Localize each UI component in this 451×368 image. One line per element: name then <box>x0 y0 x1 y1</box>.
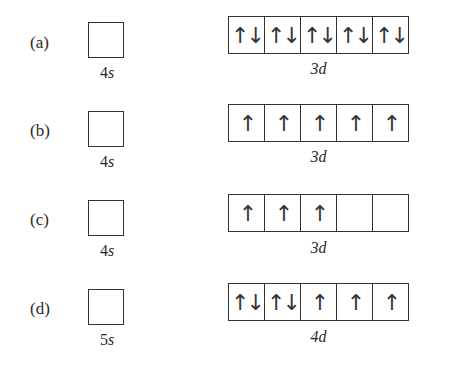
d-orbital-cell: ↑↓ <box>265 17 301 53</box>
d-orbital-label: 3d <box>228 239 409 257</box>
option-label: (c) <box>30 210 49 230</box>
d-orbital-cell: ↑↓ <box>229 284 265 320</box>
option-b: (b) 4s ↑ ↑ ↑ ↑ ↑ 3d <box>0 89 451 177</box>
d-orbital-label: 4d <box>228 328 409 346</box>
d-orbital-cell: ↑↓ <box>265 284 301 320</box>
d-orbital-label: 3d <box>228 60 409 78</box>
d-orbital-boxes: ↑ ↑ ↑ <box>228 194 409 232</box>
option-c: (c) 4s ↑ ↑ ↑ 3d <box>0 178 451 266</box>
d-orbital-cell: ↑ <box>337 284 373 320</box>
d-orbital-cell: ↑↓ <box>373 17 408 53</box>
s-orbital-label: 4s <box>88 64 126 82</box>
option-label: (a) <box>30 33 49 53</box>
d-orbital-cell: ↑ <box>301 195 337 231</box>
d-orbital-cell: ↑ <box>337 105 373 141</box>
d-orbital-boxes: ↑ ↑ ↑ ↑ ↑ <box>228 104 409 142</box>
d-orbital-cell: ↑↓ <box>229 17 265 53</box>
d-orbital-boxes: ↑↓ ↑↓ ↑ ↑ ↑ <box>228 283 409 321</box>
option-label: (d) <box>30 299 50 319</box>
d-orbital-cell: ↑ <box>229 105 265 141</box>
d-orbital-cell: ↑ <box>265 105 301 141</box>
option-d: (d) 5s ↑↓ ↑↓ ↑ ↑ ↑ 4d <box>0 267 451 355</box>
s-orbital-box <box>88 200 124 236</box>
s-orbital-label: 4s <box>88 242 126 260</box>
d-orbital-cell: ↑ <box>373 284 408 320</box>
d-orbital-cell: ↑↓ <box>301 17 337 53</box>
d-orbital-label: 3d <box>228 148 409 166</box>
option-a: (a) 4s ↑↓ ↑↓ ↑↓ ↑↓ ↑↓ 3d <box>0 0 451 88</box>
d-orbital-cell: ↑ <box>301 284 337 320</box>
s-orbital-box <box>88 111 124 147</box>
s-orbital-label: 4s <box>88 153 126 171</box>
s-orbital-label: 5s <box>88 331 126 349</box>
d-orbital-boxes: ↑↓ ↑↓ ↑↓ ↑↓ ↑↓ <box>228 16 409 54</box>
option-label: (b) <box>30 121 50 141</box>
d-orbital-cell <box>373 195 408 231</box>
d-orbital-cell: ↑ <box>229 195 265 231</box>
d-orbital-cell: ↑ <box>373 105 408 141</box>
d-orbital-cell <box>337 195 373 231</box>
d-orbital-cell: ↑↓ <box>337 17 373 53</box>
s-orbital-box <box>88 22 124 58</box>
s-orbital-box <box>88 289 124 325</box>
d-orbital-cell: ↑ <box>265 195 301 231</box>
d-orbital-cell: ↑ <box>301 105 337 141</box>
